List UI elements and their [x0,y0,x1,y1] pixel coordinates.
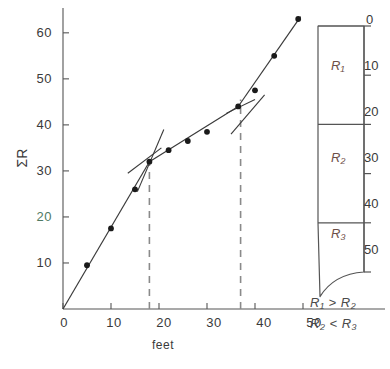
x-tick-label-40: 40 [249,315,279,330]
data-points [84,16,301,268]
relation-line-2: R₂ < R₃ [310,316,357,331]
y-axis-ticks [63,33,69,263]
column-depth-label-50: 50 [364,242,378,257]
column-depth-label-0: 0 [366,12,373,27]
y-tick-label-10: 10 [18,255,52,270]
x-axis-ticks [63,303,303,309]
y-tick-label-20: 20 [18,209,52,224]
figure-panel: 60 50 40 30 20 10 ΣR 0 10 20 30 40 50 fe… [0,0,390,369]
column-depth-label-40: 40 [364,196,378,211]
column-depth-label-20: 20 [364,104,378,119]
relation-line-1: R₁ > R₂ [310,295,356,310]
y-axis-label: ΣR [14,138,30,178]
tangent-guide-lines [128,95,265,192]
column-depth-label-10: 10 [364,58,378,73]
x-tick-label-30: 30 [199,315,229,330]
y-tick-label-60: 60 [18,25,52,40]
fitted-segment-lines [63,17,301,309]
layer-label-R2: R₂ [331,150,345,165]
x-tick-label-10: 10 [99,315,129,330]
x-axis-label: feet [152,338,174,352]
layer-label-R3: R₃ [331,226,346,241]
layer-label-R1: R₁ [331,58,345,73]
x-tick-label-20: 20 [149,315,179,330]
y-tick-label-40: 40 [18,117,52,132]
x-tick-label-0: 0 [49,315,79,330]
column-depth-label-30: 30 [364,150,378,165]
y-tick-label-50: 50 [18,71,52,86]
